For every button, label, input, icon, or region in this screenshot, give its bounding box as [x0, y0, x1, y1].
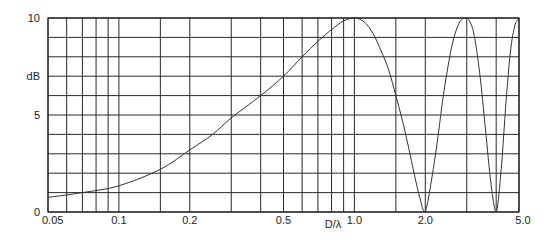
y-axis-label: dB	[27, 70, 40, 82]
x-tick-label: 0.05	[42, 214, 63, 226]
x-tick-label: 2.0	[418, 214, 433, 226]
y-tick-label: 5	[34, 109, 40, 121]
x-tick-label: 1.0	[347, 214, 362, 226]
x-tick-label: 0.2	[182, 214, 197, 226]
x-axis-label: D/λ	[325, 218, 342, 230]
y-tick-label: 0	[34, 206, 40, 218]
x-axis-tick-labels: 0.050.10.20.51.02.05.0	[42, 214, 531, 226]
x-tick-label: 0.5	[276, 214, 291, 226]
x-tick-label: 5.0	[515, 214, 530, 226]
y-tick-label: 10	[28, 12, 40, 24]
gain-chart: 0.050.10.20.51.02.05.0 0510 D/λ dB	[0, 0, 555, 240]
y-axis-tick-labels: 0510	[28, 12, 40, 218]
x-tick-label: 0.1	[111, 214, 126, 226]
